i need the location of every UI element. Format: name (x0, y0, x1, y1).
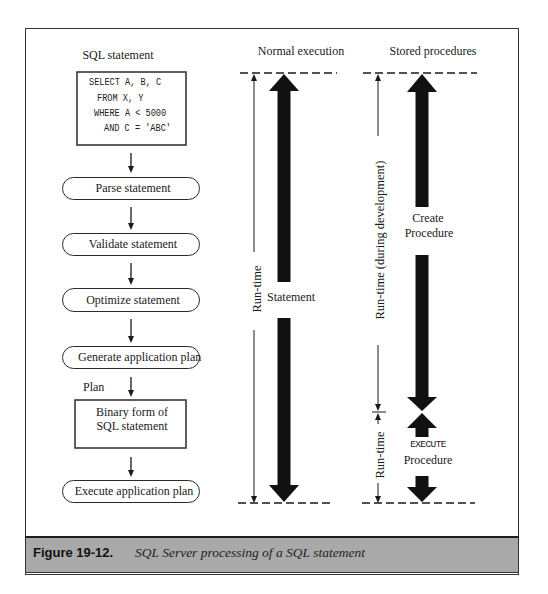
binary-form-line: SQL statement (96, 419, 167, 433)
normal-runtime-label: Run-time (250, 264, 264, 313)
execute-procedure-label: Procedure (404, 453, 453, 467)
arrow-up-icon (251, 74, 257, 81)
arrow-down-icon (128, 153, 134, 173)
sql-code-line: WHERE A < 5000 (94, 107, 166, 119)
stored-runtime-label: Run-time (373, 430, 387, 479)
sql-column-title: SQL statement (82, 48, 153, 62)
arrow-down-icon (375, 404, 381, 411)
create-label: Create (412, 211, 443, 225)
arrow-down-icon (128, 263, 134, 285)
normal-column-title: Normal execution (258, 44, 344, 58)
big-arrow-up-icon (407, 74, 437, 207)
step-label: Execute application plan (75, 484, 194, 498)
execute-label: EXECUTE (410, 439, 446, 450)
big-arrow-up-icon (269, 74, 299, 282)
big-arrow-up-icon (407, 413, 437, 437)
binary-form-line: Binary form of (96, 405, 168, 419)
step-label: Optimize statement (86, 293, 180, 307)
dev-runtime-label: Run-time (during development) (373, 160, 387, 321)
plan-label: Plan (83, 380, 104, 394)
step-label: Generate application plan (78, 350, 201, 364)
big-arrow-down-icon (407, 255, 437, 411)
arrow-down-icon (128, 457, 134, 477)
arrow-down-icon (375, 496, 381, 503)
statement-label: Statement (267, 290, 315, 304)
stored-column-title: Stored procedures (390, 44, 477, 58)
create-procedure-label: Procedure (405, 226, 454, 240)
arrow-down-icon (128, 319, 134, 343)
sql-code-line: FROM X, Y (97, 92, 143, 104)
sql-code-line: AND C = 'ABC' (104, 122, 171, 134)
step-label: Validate statement (89, 237, 177, 251)
arrow-up-icon (375, 74, 381, 81)
sql-code-line: SELECT A, B, C (89, 76, 161, 88)
arrow-up-icon (375, 413, 381, 420)
big-arrow-down-icon (269, 318, 299, 502)
step-label: Parse statement (96, 181, 171, 195)
arrow-down-icon (251, 496, 257, 503)
statement-arrow (269, 74, 299, 502)
arrow-down-icon (128, 377, 134, 397)
big-arrow-down-icon (407, 476, 437, 502)
arrow-down-icon (128, 207, 134, 230)
